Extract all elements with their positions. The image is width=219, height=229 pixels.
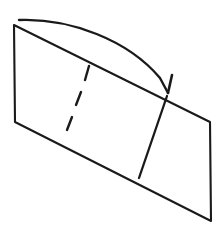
paper-folding-diagram <box>0 0 219 229</box>
solid-crease-line <box>139 96 167 178</box>
arrow-head-icon <box>168 75 172 93</box>
dash-segment-1 <box>85 66 89 80</box>
paper-sheet-outline <box>14 25 211 221</box>
dash-segment-2 <box>76 92 81 105</box>
motion-arc-icon <box>19 20 168 93</box>
dashed-fold-line <box>67 66 89 130</box>
dash-segment-3 <box>67 117 72 130</box>
figure-canvas <box>0 0 219 229</box>
fold-motion-arrow <box>19 20 172 93</box>
